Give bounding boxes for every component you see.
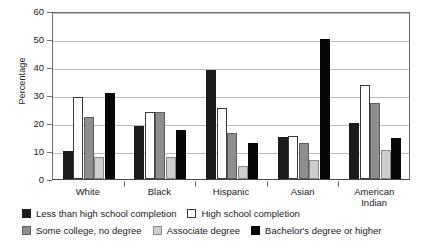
bar <box>176 130 186 179</box>
chart-legend: Less than high school completionHigh sch… <box>22 205 414 239</box>
bar <box>349 123 359 179</box>
bar <box>217 108 227 179</box>
y-tick-0 <box>47 180 52 181</box>
legend-label: Associate degree <box>167 226 240 236</box>
bar <box>391 138 401 179</box>
bar-group <box>349 13 401 179</box>
bar <box>238 166 248 179</box>
legend-item: High school completion <box>187 209 299 219</box>
bar <box>84 117 94 179</box>
legend-swatch-icon <box>22 209 31 218</box>
bar <box>360 85 370 179</box>
legend-row-1: Less than high school completionHigh sch… <box>22 205 414 222</box>
plot-area <box>52 12 410 180</box>
y-tick-label-60: 60 <box>18 7 44 17</box>
y-tick-label-30: 30 <box>18 91 44 101</box>
legend-row-2: Some college, no degreeAssociate degreeB… <box>22 222 414 239</box>
y-axis-title: Percentage <box>17 41 27 121</box>
y-tick-label-wrap-60: 60 <box>14 7 44 17</box>
bar <box>134 126 144 179</box>
legend-swatch-icon <box>251 226 260 235</box>
y-tick-label-wrap-50: 50 <box>14 35 44 45</box>
legend-label: Some college, no degree <box>36 226 142 236</box>
legend-swatch-icon <box>153 226 162 235</box>
bar-group <box>206 13 258 179</box>
bar <box>248 143 258 179</box>
y-tick-label-10: 10 <box>18 147 44 157</box>
bar <box>155 112 165 180</box>
y-tick-label-wrap-10: 10 <box>14 147 44 157</box>
bar <box>381 150 391 179</box>
bar-group <box>63 13 115 179</box>
bar <box>105 93 115 179</box>
bar-chart: Percentage 0102030405060 WhiteBlackHispa… <box>0 0 423 251</box>
legend-label: Bachelor's degree or higher <box>265 226 381 236</box>
bar <box>145 112 155 179</box>
bar <box>309 160 319 179</box>
bar <box>288 136 298 179</box>
y-tick-label-20: 20 <box>18 119 44 129</box>
bar <box>278 137 288 179</box>
y-tick-label-wrap-0: 0 <box>14 175 44 185</box>
y-tick-label-wrap-30: 30 <box>14 91 44 101</box>
legend-item: Associate degree <box>153 226 240 236</box>
bar <box>370 103 380 179</box>
bar <box>299 143 309 179</box>
legend-swatch-icon <box>22 226 31 235</box>
y-tick-label-50: 50 <box>18 35 44 45</box>
legend-swatch-icon <box>187 209 196 218</box>
bar-group <box>278 13 330 179</box>
bar <box>166 157 176 179</box>
legend-label: Less than high school completion <box>36 209 176 219</box>
legend-item: Bachelor's degree or higher <box>251 226 381 236</box>
y-tick-label-40: 40 <box>18 63 44 73</box>
y-tick-label-wrap-40: 40 <box>14 63 44 73</box>
legend-item: Some college, no degree <box>22 226 142 236</box>
bar <box>73 97 83 179</box>
y-tick-label-wrap-20: 20 <box>14 119 44 129</box>
bar <box>206 70 216 180</box>
bar <box>94 157 104 179</box>
x-axis-label-line: American <box>324 186 423 197</box>
legend-item: Less than high school completion <box>22 209 176 219</box>
bar <box>63 151 73 179</box>
legend-label: High school completion <box>201 209 299 219</box>
bar <box>320 39 330 179</box>
bar-group <box>134 13 186 179</box>
bar <box>227 133 237 180</box>
y-tick-label-0: 0 <box>18 175 44 185</box>
